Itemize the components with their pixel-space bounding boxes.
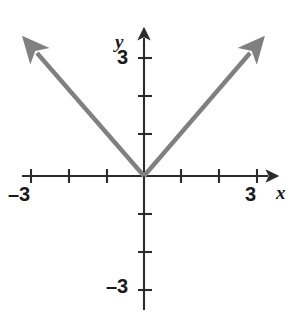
curve-right-branch: [144, 53, 250, 176]
y-tick-label-negative-three: –3: [106, 276, 128, 296]
y-tick-label-positive-three: 3: [117, 47, 128, 67]
coordinate-plane-svg: [0, 0, 297, 316]
x-axis-label: x: [276, 183, 286, 202]
graph-figure: y x 3 –3 3 –3: [0, 0, 297, 316]
x-tick-label-negative-three: –3: [8, 184, 30, 204]
curve-left-branch: [37, 53, 144, 176]
x-tick-label-positive-three: 3: [245, 184, 256, 204]
